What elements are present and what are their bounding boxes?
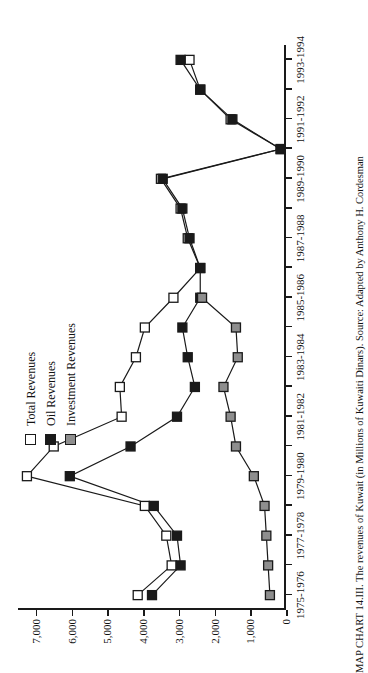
x-tick	[286, 385, 292, 387]
data-point-marker	[183, 353, 192, 362]
data-point-marker	[178, 323, 187, 332]
x-tick-label: 1975-1976	[295, 571, 306, 619]
x-tick	[286, 88, 292, 90]
x-tick	[286, 296, 292, 298]
x-tick-label: 1985-1986	[295, 274, 306, 322]
y-tick	[36, 610, 38, 616]
data-point-marker	[173, 531, 182, 540]
data-point-marker	[231, 442, 240, 451]
data-point-marker	[169, 293, 178, 302]
data-point-marker	[65, 472, 74, 481]
data-point-marker	[140, 501, 149, 510]
open-square-icon	[25, 434, 36, 445]
x-tick	[286, 237, 292, 239]
data-point-marker	[233, 353, 242, 362]
data-point-marker	[131, 353, 140, 362]
y-tick-label: 7,000	[30, 619, 41, 644]
data-point-marker	[276, 145, 285, 154]
data-point-marker	[158, 174, 167, 183]
x-tick-label: 1993-1994	[295, 36, 306, 84]
legend-label: Oil Revenues	[45, 361, 57, 426]
y-tick	[107, 610, 109, 616]
x-tick-label: 1987-1988	[295, 214, 306, 262]
y-tick	[250, 610, 252, 616]
x-tick-label: 1989-1990	[295, 155, 306, 203]
y-tick	[143, 610, 145, 616]
y-tick-label: 2,000	[209, 619, 220, 644]
x-tick-label: 1981-1982	[295, 393, 306, 441]
x-tick	[286, 118, 292, 120]
legend-item-total-revenues: Total Revenues	[22, 323, 39, 445]
data-point-marker	[176, 561, 185, 570]
x-tick	[286, 445, 292, 447]
data-point-marker	[22, 472, 31, 481]
data-point-marker	[115, 382, 124, 391]
data-point-marker	[126, 442, 135, 451]
data-point-marker	[265, 591, 274, 600]
data-point-marker	[178, 204, 187, 213]
x-tick	[286, 415, 292, 417]
y-tick-label: 1,000	[245, 619, 256, 644]
data-point-marker	[196, 264, 205, 273]
legend-item-investment-revenues: Investment Revenues	[62, 323, 79, 445]
data-point-marker	[149, 501, 158, 510]
x-tick-label: 1991-1992	[295, 96, 306, 144]
data-point-marker	[140, 323, 149, 332]
data-point-marker	[148, 591, 157, 600]
data-point-marker	[198, 293, 207, 302]
data-point-marker	[219, 382, 228, 391]
data-point-marker	[249, 472, 258, 481]
data-point-marker	[228, 115, 237, 124]
y-tick	[72, 610, 74, 616]
x-tick-label: 1979-1980	[295, 452, 306, 500]
y-tick-label: 3,000	[173, 619, 184, 644]
x-tick	[286, 534, 292, 536]
x-tick	[286, 475, 292, 477]
figure-page: 01,0002,0003,0004,0005,0006,0007,000 197…	[0, 0, 368, 673]
data-point-marker	[117, 412, 126, 421]
data-point-marker	[260, 501, 269, 510]
x-tick	[286, 326, 292, 328]
data-point-marker	[264, 561, 273, 570]
filled-square-icon	[45, 434, 56, 445]
legend-label: Total Revenues	[25, 352, 37, 426]
legend-item-oil-revenues: Oil Revenues	[42, 323, 59, 445]
data-point-marker	[226, 412, 235, 421]
y-tick	[179, 610, 181, 616]
x-tick	[286, 58, 292, 60]
y-tick	[286, 610, 288, 616]
data-point-marker	[167, 561, 176, 570]
figure-caption: MAP CHART 14.III. The revenues of Kuwait…	[352, 0, 368, 673]
x-tick	[286, 564, 292, 566]
data-point-marker	[133, 591, 142, 600]
chart-legend: Total Revenues Oil Revenues Investment R…	[22, 323, 82, 445]
x-tick	[286, 148, 292, 150]
data-point-marker	[185, 55, 194, 64]
x-tick	[286, 266, 292, 268]
data-point-marker	[173, 412, 182, 421]
data-point-marker	[196, 85, 205, 94]
y-tick-label: 6,000	[66, 619, 77, 644]
x-tick	[286, 504, 292, 506]
x-tick-label: 1983-1984	[295, 333, 306, 381]
data-point-marker	[262, 531, 271, 540]
rotated-chart-container: 01,0002,0003,0004,0005,0006,0007,000 197…	[0, 0, 368, 673]
x-tick	[286, 207, 292, 209]
gray-square-icon	[65, 434, 76, 445]
legend-label: Investment Revenues	[65, 323, 77, 426]
x-tick	[286, 594, 292, 596]
x-tick	[286, 177, 292, 179]
y-tick-label: 5,000	[102, 619, 113, 644]
data-point-marker	[185, 234, 194, 243]
series-line	[70, 60, 281, 595]
data-point-marker	[231, 323, 240, 332]
y-tick-label: 0	[281, 619, 292, 625]
data-point-marker	[176, 55, 185, 64]
y-tick	[215, 610, 217, 616]
y-tick-label: 4,000	[138, 619, 149, 644]
data-point-marker	[162, 531, 171, 540]
x-tick	[286, 356, 292, 358]
data-point-marker	[190, 382, 199, 391]
x-tick-label: 1977-1978	[295, 512, 306, 560]
